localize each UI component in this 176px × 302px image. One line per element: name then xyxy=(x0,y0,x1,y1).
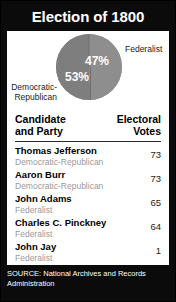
column-header-votes: Electoral Votes xyxy=(113,114,161,137)
pie-label-federalist: Federalist xyxy=(125,44,162,54)
source-footer: SOURCE: National Archives and Records Ad… xyxy=(1,265,175,301)
source-line-1: SOURCE: National Archives and Records xyxy=(7,269,169,279)
candidate-party: Federalist xyxy=(15,205,117,215)
source-line-2: Administration xyxy=(7,279,169,289)
candidate-party: Democratic-Republican xyxy=(15,157,117,167)
electoral-votes-cell: 65 xyxy=(117,194,161,209)
candidate-cell: John JayFederalist xyxy=(15,242,117,263)
column-header-candidate: Candidate and Party xyxy=(15,114,113,137)
candidate-name: Aaron Burr xyxy=(15,170,117,181)
table-header-row: Candidate and Party Electoral Votes xyxy=(15,114,161,140)
title-band: Election of 1800 xyxy=(1,1,175,31)
page-title: Election of 1800 xyxy=(32,9,145,24)
column-header-candidate-line2: and Party xyxy=(15,126,113,138)
pie-divider-bottom xyxy=(90,67,91,100)
candidate-name: Charles C. Pinckney xyxy=(15,218,117,229)
candidate-cell: John AdamsFederalist xyxy=(15,194,117,215)
table-row: Thomas JeffersonDemocratic-Republican73 xyxy=(15,146,161,167)
pie-value-democratic-republican: 53% xyxy=(65,71,89,83)
candidate-name: John Jay xyxy=(15,242,117,253)
table-row: John AdamsFederalist65 xyxy=(15,194,161,215)
candidate-party: Democratic-Republican xyxy=(15,181,117,191)
content-panel: 47% 53% Federalist Democratic- Republica… xyxy=(7,31,169,265)
candidate-cell: Aaron BurrDemocratic-Republican xyxy=(15,170,117,191)
candidate-party: Federalist xyxy=(15,229,117,239)
electoral-votes-cell: 73 xyxy=(117,146,161,161)
column-header-votes-line1: Electoral xyxy=(113,114,161,126)
pie-label-dr-line1: Democratic- xyxy=(7,82,57,92)
candidate-name: John Adams xyxy=(15,194,117,205)
results-table: Candidate and Party Electoral Votes Thom… xyxy=(7,114,169,263)
pie-label-democratic-republican: Democratic- Republican xyxy=(7,82,57,102)
electoral-votes-cell: 73 xyxy=(117,170,161,185)
candidate-cell: Charles C. PinckneyFederalist xyxy=(15,218,117,239)
candidate-name: Thomas Jefferson xyxy=(15,146,117,157)
column-header-candidate-line1: Candidate xyxy=(15,114,113,126)
election-infographic: Election of 1800 47% 53% Federalist Demo… xyxy=(0,0,176,302)
pie-label-dr-line2: Republican xyxy=(7,92,57,102)
table-row: John JayFederalist1 xyxy=(15,242,161,263)
electoral-votes-cell: 64 xyxy=(117,218,161,233)
electoral-votes-cell: 1 xyxy=(117,242,161,257)
table-row: Charles C. PinckneyFederalist64 xyxy=(15,218,161,239)
column-header-votes-line2: Votes xyxy=(113,126,161,138)
candidate-party: Federalist xyxy=(15,253,117,263)
pie-value-federalist: 47% xyxy=(85,55,109,67)
table-body: Thomas JeffersonDemocratic-Republican73A… xyxy=(15,146,161,263)
table-header-rule xyxy=(15,141,161,142)
candidate-cell: Thomas JeffersonDemocratic-Republican xyxy=(15,146,117,167)
pie-chart: 47% 53% Federalist Democratic- Republica… xyxy=(7,31,169,114)
table-row: Aaron BurrDemocratic-Republican73 xyxy=(15,170,161,191)
